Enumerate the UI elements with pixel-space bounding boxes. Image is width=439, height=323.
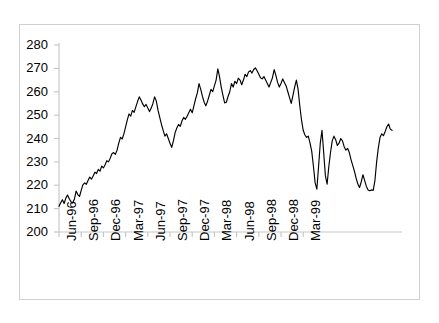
x-tick-label: Dec-97	[197, 199, 212, 241]
x-tick-label: Mar-97	[131, 200, 146, 241]
x-tick-label: Dec-98	[286, 199, 301, 241]
y-tick-label: 230	[8, 154, 48, 169]
y-tick-label: 280	[8, 37, 48, 52]
y-tick-label: 210	[8, 201, 48, 216]
x-tick-label: Sep-98	[264, 199, 279, 241]
x-tick-label: Jun-97	[153, 201, 168, 241]
x-tick-label: Mar-98	[219, 200, 234, 241]
y-tick-label: 270	[8, 60, 48, 75]
y-tick-marks	[54, 45, 59, 232]
x-tick-label: Jun-98	[242, 201, 257, 241]
y-tick-label: 200	[8, 224, 48, 239]
data-series-line	[59, 68, 392, 206]
y-tick-label: 250	[8, 107, 48, 122]
y-tick-label: 240	[8, 131, 48, 146]
line-chart	[0, 0, 439, 323]
y-tick-label: 260	[8, 84, 48, 99]
y-tick-label: 220	[8, 177, 48, 192]
x-tick-label: Jun-96	[64, 201, 79, 241]
x-tick-label: Mar-99	[308, 200, 323, 241]
x-tick-label: Sep-96	[86, 199, 101, 241]
x-tick-label: Dec-96	[108, 199, 123, 241]
x-tick-label: Sep-97	[175, 199, 190, 241]
